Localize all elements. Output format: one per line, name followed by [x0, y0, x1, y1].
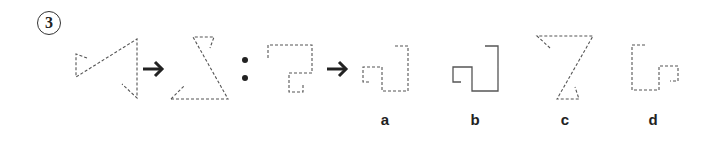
right-arrow-icon — [327, 62, 346, 76]
option-b-shape[interactable] — [453, 46, 498, 91]
option-c-shape[interactable] — [537, 36, 593, 99]
analogy-separator-icon — [242, 57, 248, 81]
figure-1-source-shape — [76, 39, 137, 98]
figure-3-source-shape — [268, 45, 312, 92]
option-d-shape[interactable] — [632, 45, 678, 90]
option-label-c[interactable]: c — [555, 111, 575, 128]
option-label-b[interactable]: b — [465, 111, 485, 128]
option-label-a[interactable]: a — [375, 111, 395, 128]
right-arrow-icon — [143, 62, 162, 76]
option-a-shape[interactable] — [363, 46, 408, 91]
option-label-d[interactable]: d — [643, 111, 663, 128]
figure-2-transformed-shape — [171, 37, 228, 99]
